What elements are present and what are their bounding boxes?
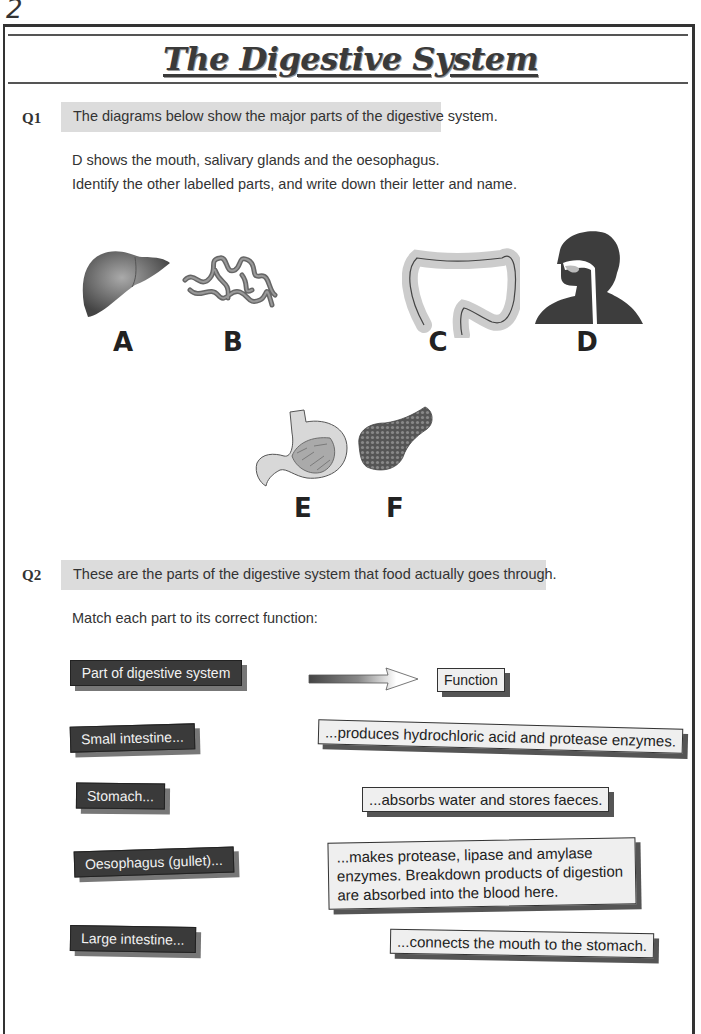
function-label-absorbs-water[interactable]: ...absorbs water and stores faeces. [362,787,609,812]
title-rule-top [8,34,688,36]
figure-letter-d: D [567,327,607,357]
question-number-q1: Q1 [22,110,41,127]
figure-letter-b: B [213,327,253,357]
figure-letter-f: F [375,493,415,523]
function-label-makes-enzymes[interactable]: ...makes protease, lipase and amylase en… [327,837,636,909]
stomach-icon [252,408,354,488]
part-label-oesophagus[interactable]: Oesophagus (gullet)... [74,846,234,877]
figure-letter-a: A [103,327,143,357]
page-title: The Digestive System [0,40,701,78]
q2-instruction: Match each part to its correct function: [72,610,318,626]
part-label-small-intestine[interactable]: Small intestine... [70,723,195,752]
liver-icon [80,245,175,320]
question-prompt-q2: These are the parts of the digestive sys… [61,560,546,590]
page-number: 2 [6,0,23,24]
figure-letter-c: C [418,327,458,357]
question-prompt-q1: The diagrams below show the major parts … [61,102,441,132]
head-mouth-oesophagus-icon [535,228,647,328]
part-label-large-intestine[interactable]: Large intestine... [70,925,196,953]
header-function: Function [437,668,505,692]
small-intestine-icon [180,250,282,312]
figure-letter-e: E [283,493,323,523]
arrow-right-icon [308,667,420,691]
pancreas-icon [355,405,435,475]
part-label-stomach[interactable]: Stomach... [76,783,165,810]
q1-text-line-1: D shows the mouth, salivary glands and t… [72,152,440,168]
q1-text-line-2: Identify the other labelled parts, and w… [72,176,517,192]
header-part-of-digestive-system: Part of digestive system [70,660,242,686]
title-rule-bottom [8,82,688,84]
question-number-q2: Q2 [22,567,41,584]
function-label-connects-mouth[interactable]: ...connects the mouth to the stomach. [390,929,655,959]
large-intestine-icon [402,240,520,338]
